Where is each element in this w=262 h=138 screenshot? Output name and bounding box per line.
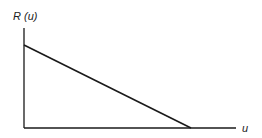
x-axis-label: u xyxy=(242,122,248,134)
y-axis-label: R (u) xyxy=(13,10,38,22)
r-of-u-line xyxy=(24,45,191,128)
diagram-canvas: R (u) u xyxy=(0,0,262,138)
